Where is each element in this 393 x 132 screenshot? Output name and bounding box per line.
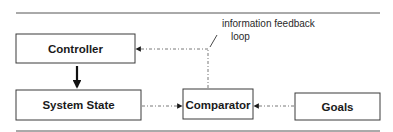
feedback-loop-diagram: Controller System State Comparator Goals… bbox=[0, 0, 393, 132]
goals-label: Goals bbox=[322, 101, 354, 113]
annotation-line-2: loop bbox=[231, 31, 250, 42]
system-state-label: System State bbox=[42, 99, 114, 111]
goals-node: Goals bbox=[295, 93, 380, 120]
system-state-node: System State bbox=[16, 90, 141, 120]
controller-node: Controller bbox=[16, 34, 135, 63]
annotation-leader-line bbox=[210, 35, 217, 47]
comparator-node: Comparator bbox=[183, 89, 253, 119]
controller-label: Controller bbox=[48, 43, 103, 55]
comparator-label: Comparator bbox=[185, 99, 251, 111]
annotation-line-1: information feedback bbox=[222, 18, 316, 29]
